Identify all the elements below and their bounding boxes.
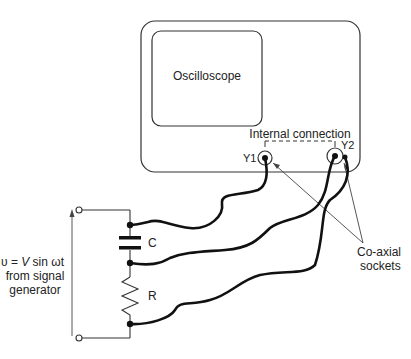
oscilloscope-body (141, 21, 360, 172)
lead-y1 (130, 158, 267, 228)
source-label-line2: from signal (6, 269, 65, 283)
lead-y2-ground (130, 157, 348, 324)
coaxial-label-line1: Co-axial (357, 245, 401, 259)
terminal-top[interactable] (76, 207, 82, 213)
capacitor-plate-bottom (119, 246, 141, 250)
source-label-line1: υ = V sin ωt (1, 255, 65, 269)
leads (130, 156, 348, 324)
capacitor-label: C (148, 236, 157, 250)
capacitor-plate-top (119, 236, 141, 240)
socket-y2-label: Y2 (341, 139, 354, 151)
oscilloscope-label: Oscilloscope (173, 69, 241, 83)
circuit-wiring (82, 210, 138, 338)
terminal-bottom[interactable] (76, 335, 82, 341)
node-middle (127, 260, 133, 266)
coaxial-label-line2: sockets (360, 259, 401, 273)
resistor-label: R (148, 289, 157, 303)
node-top (127, 222, 133, 228)
voltage-arrowhead (70, 209, 75, 217)
source-label-line3: generator (9, 283, 60, 297)
node-bottom (127, 321, 133, 327)
socket-y1-label: Y1 (243, 152, 256, 164)
internal-connection-dashed-line (265, 141, 335, 147)
oscilloscope-circuit-diagram: Oscilloscope Internal connection Y1 Y2 C… (0, 0, 411, 359)
source-label-prefix: υ = (1, 255, 21, 269)
internal-connection-label: Internal connection (249, 127, 350, 141)
source-label-suffix: sin ωt (29, 255, 64, 269)
